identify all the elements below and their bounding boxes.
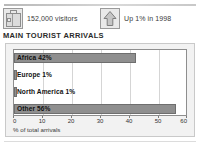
section-title: MAIN TOURIST ARRIVALS <box>3 31 104 40</box>
plot-area: Africa 42%Europe 1%North America 1%Other… <box>13 49 187 116</box>
up-arrow-icon <box>100 8 120 29</box>
bar-label: Africa 42% <box>17 53 52 63</box>
bottom-divider <box>4 141 196 142</box>
x-tick-label: 20 <box>68 118 75 124</box>
stat-growth-label: Up 1% in 1998 <box>124 15 171 22</box>
x-tick-label: 10 <box>39 118 46 124</box>
bar-label: Europe 1% <box>17 70 52 80</box>
bar-label: Other 56% <box>17 104 51 114</box>
x-tick-label: 50 <box>155 118 162 124</box>
stats-strip: 152,000 visitors Up 1% in 1998 <box>0 8 200 32</box>
suitcase-icon <box>3 8 23 29</box>
stat-visitors-label: 152,000 visitors <box>27 15 78 22</box>
x-axis-title: % of total arrivals <box>13 126 60 133</box>
bar-label: North America 1% <box>17 87 75 97</box>
stat-growth: Up 1% in 1998 <box>100 8 171 29</box>
chart-panel: Africa 42%Europe 1%North America 1%Other… <box>5 43 195 137</box>
bar-row: Africa 42% <box>14 53 187 63</box>
x-tick-label: 40 <box>126 118 133 124</box>
stat-visitors: 152,000 visitors <box>3 8 78 29</box>
x-tick-label: 60 <box>180 118 187 124</box>
plot-wrapper: Africa 42%Europe 1%North America 1%Other… <box>13 49 187 116</box>
x-tick-label: 0 <box>13 118 16 124</box>
bar-row: Europe 1% <box>14 70 187 80</box>
x-tick-label: 30 <box>97 118 104 124</box>
top-divider <box>4 4 196 6</box>
bar-row: Other 56% <box>14 104 187 114</box>
x-axis: 0102030405060 <box>13 116 187 126</box>
bar-row: North America 1% <box>14 87 187 97</box>
